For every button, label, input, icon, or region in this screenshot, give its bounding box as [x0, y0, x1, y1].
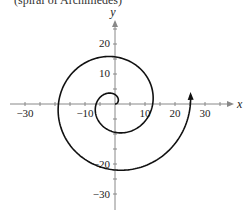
- x-tick-label: 20: [170, 107, 182, 119]
- spiral-plot: x −30 −10 10 20 30 y 20 10 −20 −30: [0, 0, 248, 215]
- y-axis-arrow-icon: [112, 20, 118, 27]
- x-axis-name: x: [236, 97, 243, 111]
- y-tick-label: 20: [99, 37, 111, 49]
- y-axis-name: y: [109, 5, 116, 19]
- x-tick-label: 30: [200, 107, 212, 119]
- x-tick-label: −10: [76, 107, 94, 119]
- y-axis: y 20 10 −20 −30: [93, 5, 118, 210]
- x-axis-arrow-icon: [227, 101, 234, 107]
- x-tick-label: −30: [16, 107, 34, 119]
- y-tick-label: 10: [99, 67, 111, 79]
- y-tick-label: −30: [93, 188, 111, 200]
- spiral-arrowhead-icon: [188, 92, 194, 100]
- x-axis: x −30 −10 10 20 30: [10, 97, 243, 119]
